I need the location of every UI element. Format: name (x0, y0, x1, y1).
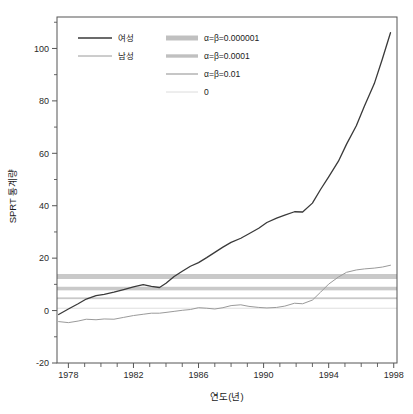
legend-series-label: 여성 (118, 33, 134, 43)
x-tick-label: 1994 (319, 370, 339, 380)
y-tick-label: -20 (36, 358, 49, 368)
chart-background (0, 0, 413, 414)
x-tick-label: 1998 (384, 370, 404, 380)
y-tick-label: 80 (39, 96, 49, 106)
x-tick-label: 1990 (254, 370, 274, 380)
legend-band-label: α=β=0.01 (204, 69, 241, 79)
y-tick-label: 60 (39, 149, 49, 159)
x-tick-label: 1978 (58, 370, 78, 380)
legend-series-label: 남성 (118, 51, 134, 61)
y-tick-label: 20 (39, 253, 49, 263)
threshold-band (57, 287, 397, 291)
y-tick-label: 0 (44, 306, 49, 316)
legend-band-label: α=β=0.000001 (204, 33, 259, 43)
x-tick-label: 1986 (189, 370, 209, 380)
sprt-line-chart: 197819821986199019941998 -20020406080100… (0, 0, 413, 414)
x-tick-label: 1982 (123, 370, 143, 380)
y-tick-label: 100 (34, 44, 49, 54)
threshold-band (57, 274, 397, 279)
legend-band-label: 0 (204, 87, 209, 97)
y-axis-title: SPRT 통계량 (7, 169, 18, 224)
y-tick-label: 40 (39, 201, 49, 211)
x-axis-title: 연도(년) (210, 391, 243, 402)
threshold-band (57, 308, 397, 309)
sprt-chart-container: 197819821986199019941998 -20020406080100… (0, 0, 413, 414)
legend-band-label: α=β=0.0001 (204, 51, 250, 61)
threshold-band (57, 297, 397, 299)
